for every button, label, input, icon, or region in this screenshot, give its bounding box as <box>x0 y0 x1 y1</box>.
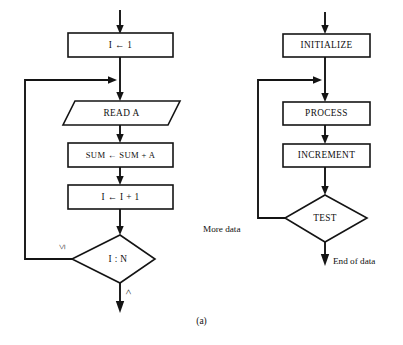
left-branch-label-loop-back: ≤ <box>56 244 67 250</box>
left-branch-label-exit: > <box>123 289 134 295</box>
flowchart-canvas: I ← 1 READ A SUM ← SUM <box>0 0 403 345</box>
left-node-accumulate-label: SUM ← SUM + A <box>86 150 156 160</box>
right-conn-increment-test <box>321 167 328 195</box>
left-node-read-label: READ A <box>104 108 140 118</box>
right-flowchart: INITIALIZE PROCESS INCR <box>203 12 375 266</box>
flowchart-figure: I ← 1 READ A SUM ← SUM <box>0 0 403 345</box>
left-conn-read-accumulate <box>116 125 123 143</box>
right-exit-arrow <box>321 242 329 266</box>
right-node-increment-label: INCREMENT <box>298 150 355 160</box>
right-conn-process-increment <box>321 125 328 144</box>
left-exit-arrow <box>116 283 124 313</box>
right-node-test-label: TEST <box>313 213 337 223</box>
right-node-process-label: PROCESS <box>305 108 348 118</box>
left-node-test-label: I : N <box>109 254 128 264</box>
right-conn-join-process <box>321 80 328 102</box>
left-node-init-label: I ← 1 <box>109 40 132 50</box>
left-conn-accumulate-increment <box>116 167 123 185</box>
left-conn-increment-test <box>116 209 123 235</box>
left-entry-arrow <box>116 10 123 34</box>
right-entry-arrow <box>321 12 328 34</box>
left-flowchart: I ← 1 READ A SUM ← SUM <box>25 10 180 313</box>
right-node-initialize-label: INITIALIZE <box>300 40 352 50</box>
figure-caption: (a) <box>0 316 403 326</box>
left-node-increment-label: I ← I + 1 <box>102 192 140 202</box>
right-branch-label-loop-back: More data <box>203 224 241 234</box>
right-branch-label-exit: End of data <box>333 256 375 266</box>
left-conn-join-read <box>116 80 123 101</box>
